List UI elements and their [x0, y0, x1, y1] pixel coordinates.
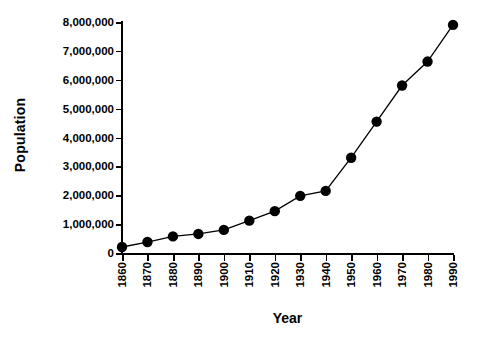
population-line-chart: Population 01,000,0002,000,0003,000,0004…: [0, 0, 496, 340]
y-axis-tick-label: 1,000,000: [63, 218, 114, 230]
x-axis-tick-mark: [351, 255, 353, 261]
data-point-marker: [168, 231, 178, 241]
data-point-marker: [422, 56, 432, 66]
series-population: [122, 22, 453, 253]
y-axis-tick-label: 7,000,000: [63, 45, 114, 57]
series-line: [122, 25, 453, 247]
x-axis-tick-mark: [275, 255, 277, 261]
x-axis-tick-labels: 1860187018801890190019101920193019401950…: [122, 262, 453, 308]
y-axis-tick-mark: [116, 109, 122, 111]
x-axis-tick-mark: [249, 255, 251, 261]
x-axis-tick-mark: [453, 255, 455, 261]
x-axis-tick-mark: [402, 255, 404, 261]
y-axis-tick-label: 5,000,000: [63, 103, 114, 115]
data-point-marker: [448, 20, 458, 30]
y-axis-tick-label: 2,000,000: [63, 189, 114, 201]
y-axis-tick-label: 8,000,000: [63, 16, 114, 28]
plot-area: [122, 22, 453, 253]
data-point-marker: [142, 237, 152, 247]
x-axis-tick-mark: [173, 255, 175, 261]
data-point-marker: [346, 153, 356, 163]
y-axis-tick-labels: 01,000,0002,000,0003,000,0004,000,0005,0…: [28, 0, 114, 270]
data-point-marker: [295, 191, 305, 201]
data-point-marker: [397, 80, 407, 90]
y-axis-tick-label: 6,000,000: [63, 74, 114, 86]
x-axis-title: Year: [122, 310, 453, 326]
data-point-marker: [219, 225, 229, 235]
y-axis-tick-mark: [116, 138, 122, 140]
data-point-marker: [117, 242, 127, 252]
y-axis-tick-label: 4,000,000: [63, 132, 114, 144]
data-point-marker: [193, 229, 203, 239]
data-point-marker: [244, 215, 254, 225]
data-point-marker: [320, 186, 330, 196]
x-axis-tick-mark: [377, 255, 379, 261]
x-axis-tick-mark: [428, 255, 430, 261]
y-axis-title-label: Population: [12, 98, 28, 172]
x-axis-tick-mark: [326, 255, 328, 261]
y-axis-tick-mark: [116, 51, 122, 53]
y-axis-tick-mark: [116, 80, 122, 82]
x-axis-tick-mark: [300, 255, 302, 261]
data-point-marker: [371, 116, 381, 126]
x-axis-tick-mark: [198, 255, 200, 261]
y-axis-tick-mark: [116, 22, 122, 24]
x-axis-tick-mark: [147, 255, 149, 261]
x-axis-tick-mark: [122, 255, 124, 261]
y-axis-tick-label: 0: [108, 247, 114, 259]
x-axis-tick-mark: [224, 255, 226, 261]
y-axis-tick-mark: [116, 195, 122, 197]
y-axis-tick-label: 3,000,000: [63, 160, 114, 172]
y-axis-tick-mark: [116, 224, 122, 226]
data-point-marker: [270, 206, 280, 216]
y-axis-tick-mark: [116, 166, 122, 168]
x-axis-line: [121, 253, 454, 255]
